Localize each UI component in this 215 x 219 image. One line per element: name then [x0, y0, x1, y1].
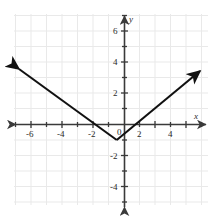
x-tick-label-neg6: -6 [26, 130, 34, 139]
y-tick-label-2: 2 [113, 89, 118, 98]
y-axis-label: y [129, 15, 133, 24]
grid-horizontal-lines [14, 16, 208, 203]
y-tick-label-neg4: -4 [110, 183, 118, 192]
x-tick-label-4: 4 [168, 130, 173, 139]
absolute-value-curve-right [117, 71, 200, 140]
x-axis-label: x [194, 112, 198, 121]
coordinate-plane-svg [0, 0, 215, 219]
y-tick-label-neg2: -2 [110, 152, 118, 161]
y-tick-label-4: 4 [113, 58, 118, 67]
x-tick-label-neg2: -2 [88, 130, 96, 139]
graph-figure: -6 -4 -2 2 4 6 4 2 -2 -4 0 x y [0, 0, 215, 219]
origin-label: 0 [117, 128, 122, 137]
x-tick-label-2: 2 [137, 130, 142, 139]
x-tick-label-neg4: -4 [57, 130, 65, 139]
y-tick-label-6: 6 [113, 27, 118, 36]
grid-vertical-lines [16, 14, 202, 205]
